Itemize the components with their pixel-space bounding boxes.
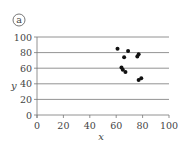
x-tick-label: 60 xyxy=(110,120,122,131)
data-point xyxy=(126,49,130,53)
gridlines xyxy=(34,37,169,118)
panel-label: a xyxy=(13,14,25,26)
data-point xyxy=(139,76,143,80)
y-tick-label: 20 xyxy=(20,94,32,105)
y-tick-label: 80 xyxy=(20,47,32,58)
y-tick-label: 100 xyxy=(14,32,32,43)
y-axis-label: y xyxy=(10,80,17,91)
data-point xyxy=(135,55,139,59)
x-tick-label: 0 xyxy=(34,120,40,131)
scatter-chart: a 020406080100 020406080100 y x xyxy=(0,0,183,151)
data-points xyxy=(116,47,144,82)
y-tick-label: 60 xyxy=(20,63,32,74)
x-tick-label: 100 xyxy=(160,120,178,131)
y-tick-label: 0 xyxy=(26,110,32,121)
y-tick-label: 40 xyxy=(20,78,32,89)
x-axis: 020406080100 xyxy=(34,115,178,131)
data-point xyxy=(122,55,126,59)
data-point xyxy=(123,70,127,74)
data-point xyxy=(116,47,120,51)
x-tick-label: 40 xyxy=(84,120,96,131)
y-axis: 020406080100 xyxy=(14,32,32,121)
svg-text:a: a xyxy=(16,14,22,25)
x-tick-label: 20 xyxy=(57,120,69,131)
x-axis-label: x xyxy=(98,131,104,142)
x-tick-label: 80 xyxy=(137,120,149,131)
